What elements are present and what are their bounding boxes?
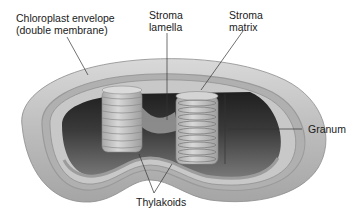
- label-stroma-matrix: Stroma matrix: [229, 9, 263, 33]
- label-envelope-line2: (double membrane): [16, 24, 115, 36]
- leader-envelope: [67, 37, 88, 75]
- label-chloroplast-envelope: Chloroplast envelope (double membrane): [16, 12, 115, 36]
- label-granum: Granum: [308, 123, 346, 135]
- label-stroma-lamella-line1: Stroma: [149, 9, 183, 21]
- label-stroma-lamella-line2: lamella: [149, 21, 183, 33]
- label-thylakoids: Thylakoids: [136, 196, 186, 208]
- label-stroma-matrix-line2: matrix: [229, 21, 263, 33]
- label-stroma-matrix-line1: Stroma: [229, 9, 263, 21]
- label-envelope-line1: Chloroplast envelope: [16, 12, 115, 24]
- granum-right: [176, 92, 218, 165]
- label-stroma-lamella: Stroma lamella: [149, 9, 183, 33]
- granum-left: [102, 86, 142, 152]
